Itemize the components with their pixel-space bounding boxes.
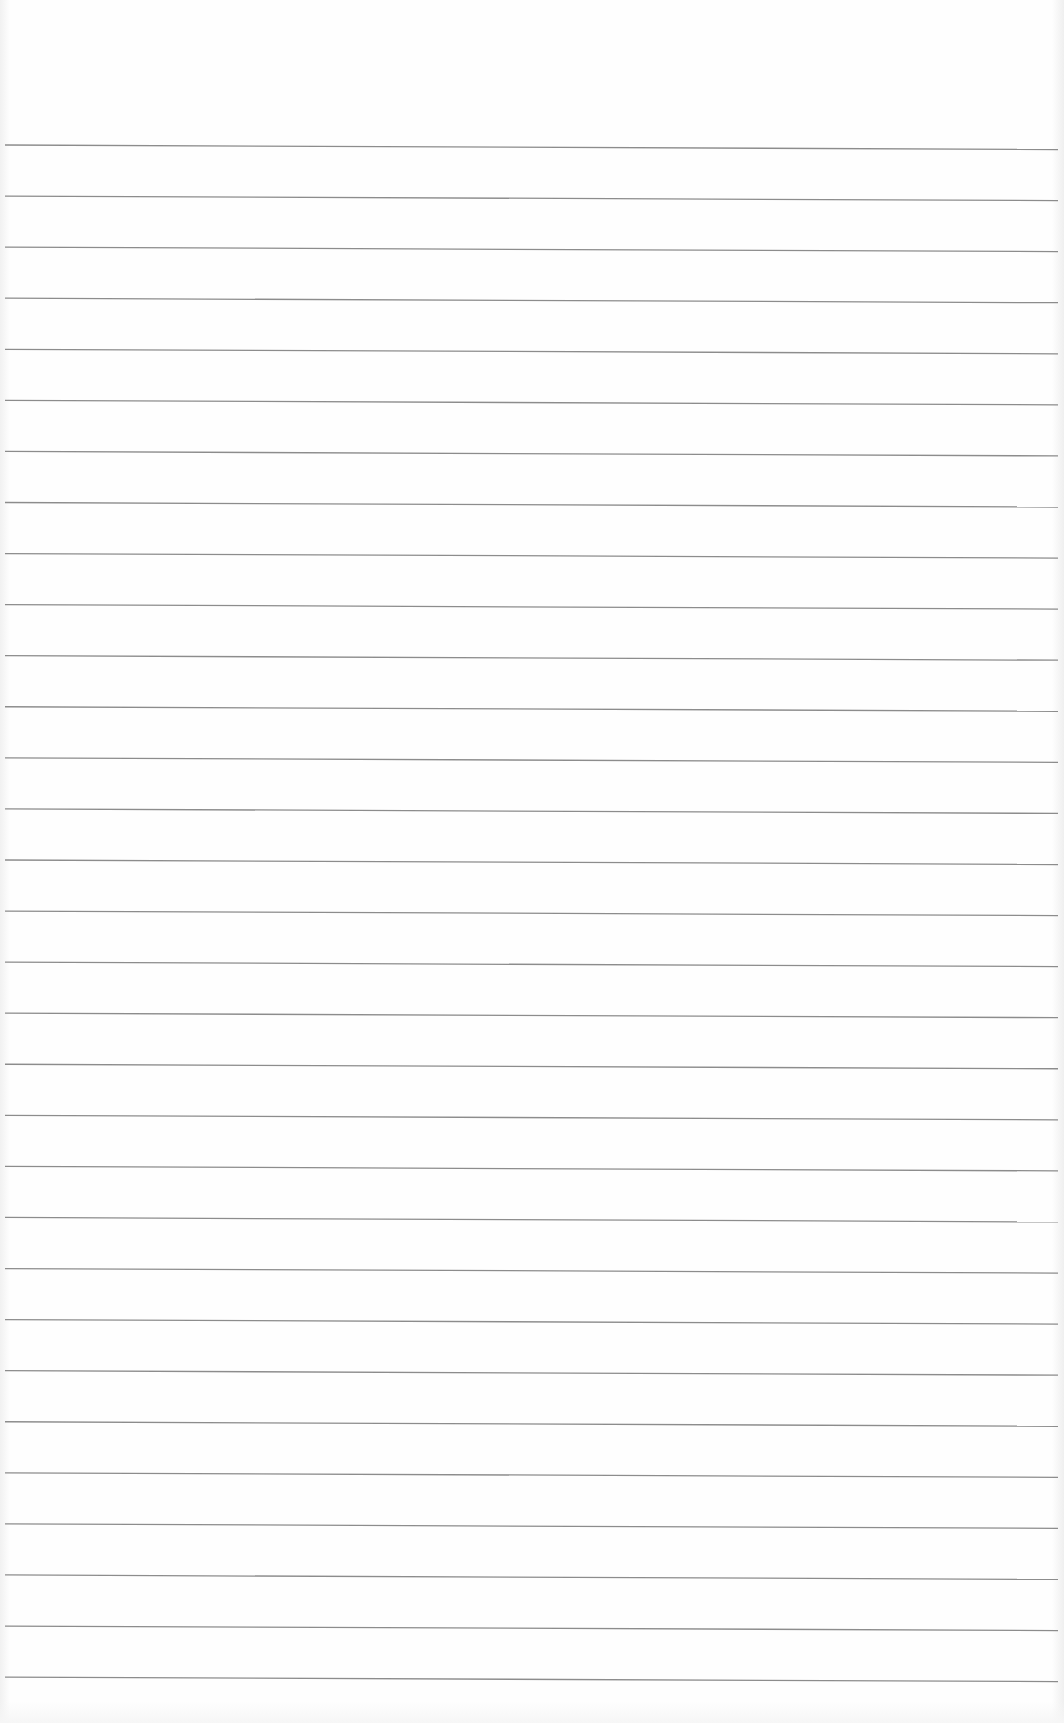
rule-line bbox=[5, 656, 1058, 661]
rule-line bbox=[5, 707, 1058, 712]
rule-line bbox=[5, 860, 1058, 865]
rule-line bbox=[5, 145, 1058, 150]
rule-line bbox=[5, 605, 1058, 610]
rule-line bbox=[5, 1166, 1058, 1171]
rule-line bbox=[5, 809, 1058, 814]
rule-line bbox=[5, 196, 1058, 201]
rule-line bbox=[5, 1371, 1058, 1376]
rule-line bbox=[5, 1677, 1058, 1682]
rule-line bbox=[5, 1115, 1058, 1120]
rule-line bbox=[5, 1217, 1058, 1222]
rule-line bbox=[5, 1524, 1058, 1529]
rule-line bbox=[5, 1269, 1058, 1274]
rule-line bbox=[5, 349, 1058, 354]
rule-line bbox=[5, 1422, 1058, 1427]
rule-line bbox=[5, 1320, 1058, 1325]
ruled-lines bbox=[0, 0, 1064, 1723]
rule-line bbox=[5, 298, 1058, 303]
rule-line bbox=[5, 1013, 1058, 1018]
lined-paper-page bbox=[0, 0, 1064, 1723]
rule-line bbox=[5, 962, 1058, 967]
rule-line bbox=[5, 758, 1058, 763]
rule-line bbox=[5, 400, 1058, 405]
rule-line bbox=[5, 451, 1058, 456]
rule-line bbox=[5, 911, 1058, 916]
rule-line bbox=[5, 1575, 1058, 1580]
rule-line bbox=[5, 1473, 1058, 1478]
rule-line bbox=[5, 554, 1058, 559]
rule-line bbox=[5, 1064, 1058, 1069]
rule-line bbox=[5, 1626, 1058, 1631]
rule-line bbox=[5, 502, 1058, 507]
rule-line bbox=[5, 247, 1058, 252]
